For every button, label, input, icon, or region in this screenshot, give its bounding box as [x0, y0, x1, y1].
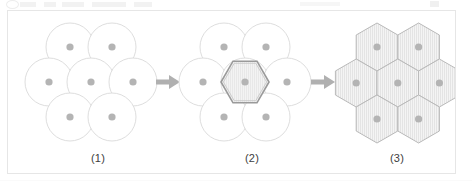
cell-center-dot	[394, 79, 401, 86]
cell-center-dot	[436, 79, 443, 86]
stage-2-circle-cluster-with-hexagon	[179, 23, 311, 141]
chrome-ghost-search-icon	[6, 0, 19, 9]
page-bottom-edge	[0, 180, 472, 181]
cell-center-dot	[262, 43, 269, 50]
cell-center-dot	[415, 43, 422, 50]
cell-center-dot	[87, 78, 94, 85]
stage-3-hexagon-tessellation	[335, 23, 455, 143]
cell-center-dot	[220, 43, 227, 50]
transition-arrow-1	[156, 75, 180, 89]
cell-center-dot	[45, 78, 52, 85]
cell-center-dot	[283, 78, 290, 85]
chrome-ghost-fragment	[92, 2, 126, 7]
cell-center-dot	[108, 113, 115, 120]
cell-center-dot	[108, 43, 115, 50]
stage-3-caption: (3)	[367, 152, 427, 165]
figure-panel: (1) (2) (3)	[7, 10, 456, 174]
chrome-ghost-fragment	[62, 2, 84, 7]
cell-center-dot	[66, 43, 73, 50]
chrome-ghost-fragment	[430, 1, 439, 7]
cell-center-dot	[373, 43, 380, 50]
chrome-ghost-fragment	[134, 2, 152, 7]
stage-1-circle-cluster	[25, 23, 157, 141]
cell-center-dot	[220, 113, 227, 120]
cell-center-dot	[415, 115, 422, 122]
cell-center-dot	[199, 78, 206, 85]
chrome-ghost-fragment	[20, 2, 36, 7]
clipped-browser-chrome	[0, 0, 472, 9]
stage-1-caption: (1)	[68, 152, 128, 165]
cell-center-dot	[66, 113, 73, 120]
cell-center-dot	[129, 78, 136, 85]
cell-tessellation-diagram	[8, 11, 455, 173]
cell-center-dot	[241, 78, 248, 85]
stage-2-caption: (2)	[222, 152, 282, 165]
cell-center-dot	[262, 113, 269, 120]
cell-center-dot	[373, 115, 380, 122]
chrome-ghost-fragment	[300, 2, 340, 6]
cell-center-dot	[353, 79, 360, 86]
chrome-ghost-fragment	[44, 2, 56, 7]
transition-arrow-2	[311, 75, 335, 89]
